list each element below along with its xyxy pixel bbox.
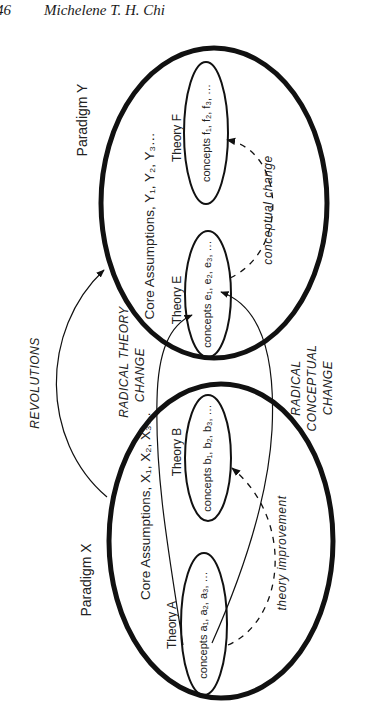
theory-f-title: Theory F [170,114,184,162]
theory-a-concepts: concepts a₁, a₂, a₃, … [197,571,209,678]
radical-conceptual-change-label-line1: RADICAL [289,360,303,416]
theory-a-title: Theory A [165,601,179,649]
paradigm-y-title: Paradigm Y [74,83,90,157]
theory-b-concepts: concepts b₁, b₂, b₃, … [201,404,213,511]
revolutions-arrow [56,270,107,497]
paradigm-x-title: Paradigm X [78,543,94,617]
paradigm-diagram: Paradigm Y Core Assumptions, Y₁, Y₂, Y₃…… [0,0,366,710]
theory-b-title: Theory B [170,428,184,477]
paradigm-x-core-assumptions: Core Assumptions, X₁, X₂, X₃… [138,412,153,600]
revolutions-label: REVOLUTIONS [28,337,42,429]
theory-improvement-label: theory improvement [275,495,289,610]
conceptual-change-label: conceptual change [261,155,275,264]
radical-conceptual-change-label-line2: CONCEPTUAL [305,344,319,431]
paradigm-y-boundary [101,48,327,358]
radical-theory-change-label-line2: CHANGE [133,347,147,402]
theory-f-concepts: concepts f₁, f₂, f₃, … [200,84,212,182]
paradigm-y-core-assumptions: Core Assumptions, Y₁, Y₂, Y₃… [142,132,157,319]
theory-e-title: Theory E [170,276,184,325]
radical-conceptual-change-label-line3: CHANGE [321,360,335,415]
theory-improvement-arrow [228,468,275,645]
radical-theory-change-label-line1: RADICAL THEORY [117,306,131,418]
theory-e-concepts: concepts e₁, e₂, e₃, … [201,240,213,347]
